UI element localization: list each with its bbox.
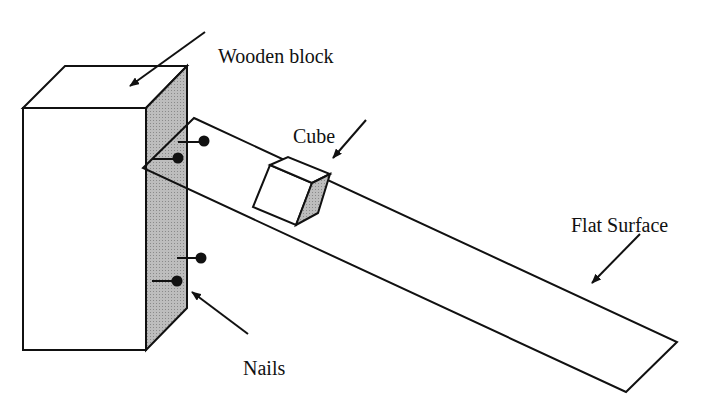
wooden-block — [23, 66, 187, 350]
nails-arrow — [192, 292, 248, 334]
wooden-block-label: Wooden block — [218, 46, 334, 66]
cube-arrow — [333, 120, 366, 158]
flat-surface-plank — [143, 118, 677, 392]
nails-label: Nails — [243, 358, 285, 378]
flat-surface-label: Flat Surface — [571, 215, 668, 235]
cube — [253, 157, 330, 225]
flat-surface-arrow — [592, 234, 640, 283]
flat-surface — [143, 118, 677, 392]
wooden-block-side-face — [146, 66, 187, 350]
cube-label: Cube — [293, 126, 335, 146]
wooden-block-front-face — [23, 108, 146, 350]
apparatus-diagram — [0, 0, 703, 412]
